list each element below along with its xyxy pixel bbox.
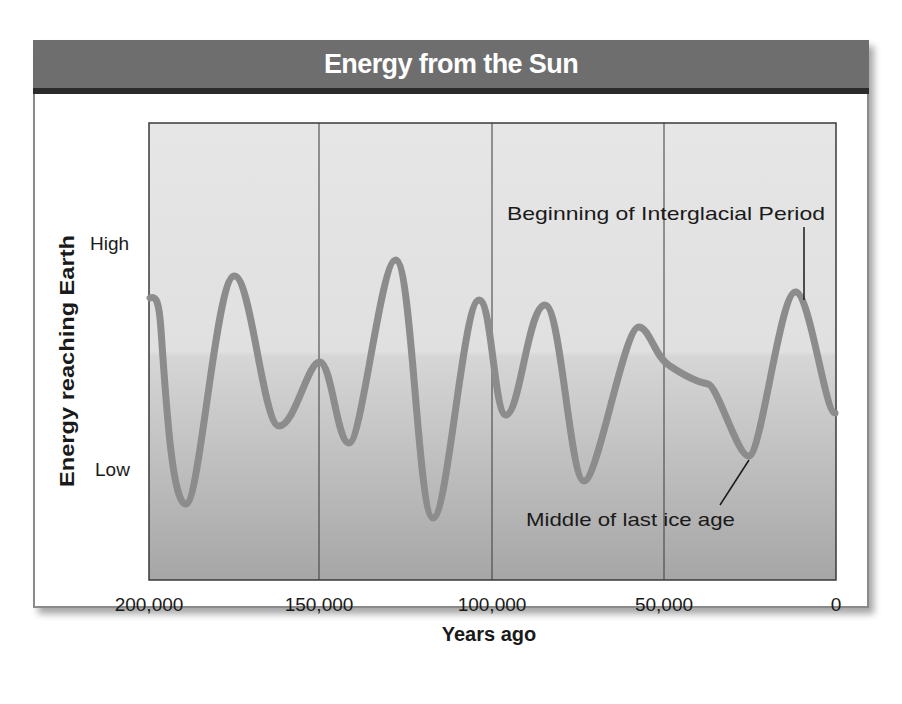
y-axis-title: Energy reaching Earth (56, 235, 78, 487)
y-label-low: Low (95, 459, 130, 480)
x-tick-50000: 50,000 (635, 594, 693, 615)
x-axis-title: Years ago (442, 623, 537, 645)
x-tick-200000: 200,000 (115, 594, 184, 615)
x-tick-0: 0 (831, 594, 842, 615)
chart-plot: Beginning of Interglacial Period Middle … (0, 0, 902, 704)
ice-age-annotation: Middle of last ice age (526, 509, 735, 530)
x-tick-150000: 150,000 (285, 594, 354, 615)
x-tick-100000: 100,000 (458, 594, 527, 615)
y-label-high: High (90, 233, 129, 254)
interglacial-annotation: Beginning of Interglacial Period (507, 203, 825, 224)
